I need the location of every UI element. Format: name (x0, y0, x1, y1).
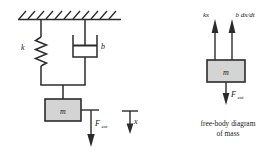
figure-container: k b m (0, 0, 280, 153)
fbd-caption-line2: of mass (217, 129, 240, 138)
figure-svg: k b m (0, 0, 280, 153)
fbd-caption-line1: free-body diagram (201, 119, 256, 128)
damper-element: b (73, 20, 105, 86)
connection-linkage (40, 85, 85, 99)
spring-label: k (21, 43, 25, 52)
applied-force-arrow: F ext (81, 110, 108, 147)
mass-block: m (45, 99, 81, 121)
fbd-caption: free-body diagram of mass (201, 119, 256, 138)
damper-force-arrow: b dx/dt (229, 11, 256, 60)
spring-force-arrow: kx (203, 11, 219, 60)
damper-label: b (101, 42, 105, 51)
spring-force-label: kx (203, 11, 210, 19)
fbd-mass-block: m (207, 60, 245, 82)
applied-force-subscript: ext (102, 124, 108, 129)
displacement-indicator: x (122, 111, 138, 134)
fbd-applied-force-subscript: ext (238, 95, 244, 100)
applied-force-label: F (94, 119, 100, 128)
mass-label: m (60, 107, 66, 116)
spring-element: k (21, 20, 47, 86)
fbd-mass-label: m (223, 68, 229, 77)
mass-spring-damper-schematic: k b m (18, 11, 138, 147)
damper-force-label: b dx/dt (235, 11, 255, 19)
fixed-support-hatching (18, 11, 121, 20)
fbd-applied-force-arrow: F ext (223, 82, 244, 105)
free-body-diagram: kx b dx/dt m F ext free-bod (201, 11, 256, 138)
fbd-applied-force-label: F (230, 90, 236, 99)
displacement-label: x (133, 117, 138, 126)
